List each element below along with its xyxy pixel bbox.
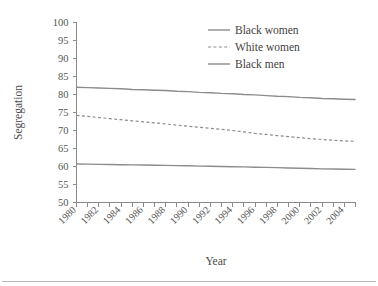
x-tick-label: 1992: [190, 204, 212, 226]
legend-label-white-women: White women: [235, 41, 300, 53]
x-tick-label-group: 1998: [257, 204, 279, 226]
y-tick-label: 100: [53, 17, 69, 28]
x-tick-label-group: 2002: [302, 204, 324, 226]
y-tick-label: 75: [58, 107, 69, 118]
x-tick-label-group: 1990: [168, 204, 190, 226]
x-tick-label-group: 1988: [145, 204, 167, 226]
y-tick-label: 60: [58, 161, 69, 172]
y-tick-label: 90: [58, 53, 69, 64]
x-tick-label: 1982: [78, 204, 100, 226]
x-tick-label-group: 1986: [123, 204, 145, 226]
y-tick-label: 80: [58, 89, 69, 100]
legend-label-black-men: Black men: [235, 58, 285, 70]
x-tick-label: 2004: [324, 204, 346, 226]
x-tick-label: 1994: [212, 204, 234, 226]
series-line-black-women: [77, 87, 356, 99]
x-tick-label: 2002: [302, 204, 324, 226]
y-tick-label: 95: [58, 35, 69, 46]
segregation-line-chart: 5055606570758085909510019801982198419861…: [0, 0, 378, 286]
x-tick-label-group: 2000: [279, 204, 301, 226]
y-tick-label: 85: [58, 71, 69, 82]
y-tick-label: 65: [58, 143, 69, 154]
x-tick-label-group: 1994: [212, 204, 234, 226]
legend-label-black-women: Black women: [235, 24, 299, 36]
chart-figure: 5055606570758085909510019801982198419861…: [0, 0, 378, 286]
y-tick-label: 55: [58, 179, 69, 190]
x-tick-label-group: 1982: [78, 204, 100, 226]
x-tick-label: 2000: [279, 204, 301, 226]
x-axis-title: Year: [205, 255, 226, 267]
x-tick-label: 1998: [257, 204, 279, 226]
x-tick-label-group: 1984: [101, 204, 123, 226]
x-tick-label-group: 1992: [190, 204, 212, 226]
x-tick-label: 1986: [123, 204, 145, 226]
x-tick-label: 1990: [168, 204, 190, 226]
y-tick-label: 70: [58, 125, 69, 136]
x-tick-label: 1996: [235, 204, 257, 226]
y-axis-title: Segregation: [12, 85, 25, 140]
x-tick-label-group: 1996: [235, 204, 257, 226]
x-tick-label-group: 2004: [324, 204, 346, 226]
x-tick-label: 1988: [145, 204, 167, 226]
series-line-white-women: [77, 115, 356, 141]
x-tick-label: 1984: [101, 204, 123, 226]
series-line-black-men: [77, 164, 356, 169]
